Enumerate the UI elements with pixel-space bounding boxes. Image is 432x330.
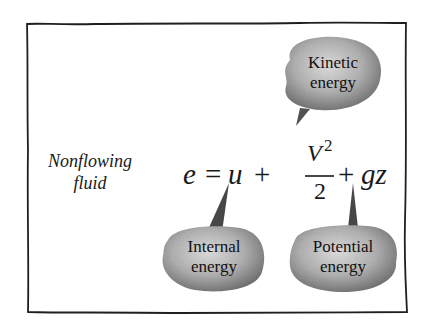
- kinetic-energy-callout: Kinetic energy: [286, 53, 380, 93]
- equation-kinetic-denominator: 2: [314, 178, 326, 205]
- potential-line1: Potential: [290, 237, 396, 257]
- internal-line2: energy: [165, 257, 263, 277]
- equation-lhs: e: [183, 158, 196, 191]
- kinetic-line2: energy: [286, 73, 380, 93]
- internal-line1: Internal: [165, 237, 263, 257]
- equation-kinetic-exponent: 2: [324, 136, 333, 156]
- equation-plus-1: +: [254, 158, 270, 191]
- nonflowing-fluid-label: Nonflowing fluid: [38, 150, 142, 194]
- kinetic-line1: Kinetic: [286, 53, 380, 73]
- internal-energy-callout: Internal energy: [165, 237, 263, 277]
- context-label-line1: Nonflowing: [38, 150, 142, 172]
- equation-equals: =: [205, 158, 221, 191]
- equation-plus-2: +: [338, 158, 354, 191]
- equation-kinetic-numerator: V: [307, 140, 322, 167]
- equation-potential-term: gz: [361, 158, 387, 191]
- potential-energy-callout: Potential energy: [290, 237, 396, 277]
- context-label-line2: fluid: [38, 172, 142, 194]
- potential-line2: energy: [290, 257, 396, 277]
- equation-internal-term: u: [228, 158, 243, 191]
